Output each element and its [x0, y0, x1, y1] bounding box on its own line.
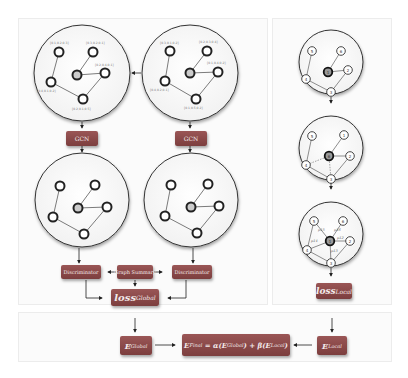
gcn-right-box: GCN — [175, 131, 207, 146]
edge-label: p15 — [318, 228, 325, 232]
discriminator-left-box: Discriminator — [61, 265, 101, 279]
loss-local-label: loss — [316, 286, 336, 296]
loss-global-label: loss — [114, 292, 136, 303]
edge-label: p12 — [337, 236, 344, 240]
svg-text:4: 4 — [305, 163, 308, 168]
node-label: [0.1,0.5,0.2] — [184, 106, 203, 110]
svg-text:4: 4 — [306, 248, 309, 253]
svg-text:1: 1 — [329, 239, 332, 244]
input-graph-right: [0.3,0.1,0.2] [0.2,0.3,0.4] [0.1,0.4,0.2… — [142, 25, 238, 121]
loss-local-box: lossLocal — [316, 283, 352, 299]
graph-summary-label: Graph Summary — [114, 269, 156, 275]
svg-text:5: 5 — [313, 219, 316, 224]
node-label: [0.1,0.2,0.3] — [50, 41, 69, 45]
svg-text:2: 2 — [347, 68, 350, 73]
svg-text:1: 1 — [343, 133, 346, 138]
loss-global-subscript: Global — [136, 294, 156, 301]
svg-text:6: 6 — [340, 49, 343, 54]
node-label: [0.2,0.4,0.1] — [95, 63, 114, 67]
svg-text:2: 2 — [349, 239, 352, 244]
formula-lhs-sub: Final — [189, 342, 202, 348]
local-graph-1: 123 456 — [299, 30, 363, 96]
formula-eq: = α( — [202, 341, 221, 350]
svg-text:3: 3 — [330, 90, 333, 95]
formula-mid: ) + β( — [244, 341, 266, 350]
node-label: [0.1,0.4,0.2] — [207, 61, 226, 65]
diagram-canvas: [0.1,0.2,0.3] [0.3,0.2,0.1] [0.2,0.4,0.1… — [0, 0, 408, 378]
formula-end: ) — [285, 341, 288, 350]
discriminator-right-box: Discriminator — [172, 265, 212, 279]
edge-label: p16 — [334, 228, 341, 232]
embedded-graph-left — [35, 153, 129, 247]
svg-text:3: 3 — [330, 261, 333, 266]
e-local-box: ELocal — [317, 336, 347, 355]
node-label: [0.2,0.1,0.5] — [72, 107, 91, 111]
edge-label: p14 — [311, 239, 318, 243]
svg-text:6: 6 — [328, 154, 331, 159]
e-global-box: EGlobal — [120, 336, 152, 355]
edge-label: p13 — [331, 249, 338, 253]
discriminator-right-label: Discriminator — [175, 269, 210, 275]
discriminator-left-label: Discriminator — [64, 269, 99, 275]
node-label: [0.4,0.2,0.1] — [150, 88, 169, 92]
local-graph-2: 623 451 — [299, 116, 363, 183]
formula-term1-sub: Global — [227, 342, 243, 348]
node-label: [0.2,0.3,0.4] — [199, 40, 218, 44]
svg-text:4: 4 — [305, 77, 308, 82]
local-graph-3: 123 456 p15 p16 p12 p14 p13 — [299, 202, 363, 267]
svg-text:5: 5 — [311, 134, 314, 139]
gcn-left-label: GCN — [75, 135, 90, 142]
e-local-subscript: Local — [328, 343, 342, 349]
svg-text:2: 2 — [349, 154, 352, 159]
node-label: [0.3,0.1,0.2] — [160, 41, 179, 45]
svg-text:6: 6 — [342, 219, 345, 224]
gcn-left-box: GCN — [66, 131, 98, 146]
svg-text:1: 1 — [327, 70, 330, 75]
loss-local-subscript: Local — [336, 288, 352, 295]
node-label: [0.4,0.1,0.2] — [37, 89, 56, 93]
loss-global-box: lossGlobal — [111, 289, 159, 306]
embedded-graph-right — [144, 153, 238, 247]
svg-text:5: 5 — [311, 49, 314, 54]
svg-text:3: 3 — [330, 177, 333, 182]
gcn-right-label: GCN — [184, 135, 199, 142]
input-graph-left: [0.1,0.2,0.3] [0.3,0.2,0.1] [0.2,0.4,0.1… — [34, 25, 130, 121]
e-final-formula-box: EFinal = α(EGlobal) + β(ELocal) — [182, 334, 290, 356]
formula-term2-sub: Local — [271, 342, 285, 348]
e-global-subscript: Global — [131, 343, 147, 349]
node-label: [0.3,0.2,0.1] — [86, 41, 105, 45]
graph-summary-box: Graph Summary — [117, 265, 153, 279]
